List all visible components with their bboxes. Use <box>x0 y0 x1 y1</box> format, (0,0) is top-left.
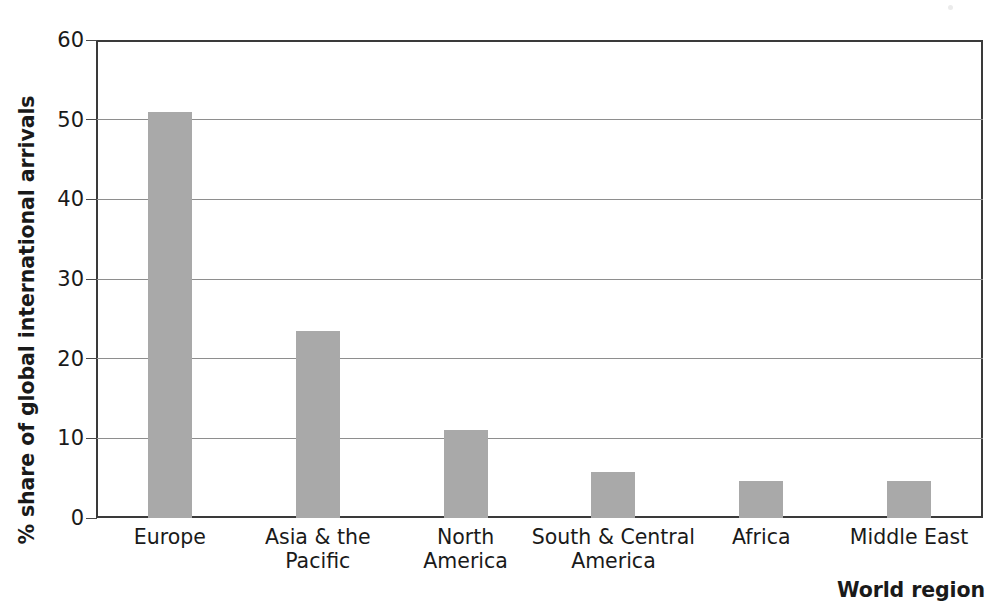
y-tick-label-10: 10 <box>0 428 84 449</box>
gridline-40 <box>96 199 983 200</box>
x-axis-title: World region <box>837 578 985 602</box>
x-tick-label: Middle East <box>809 526 1002 550</box>
y-tick-label-50: 50 <box>0 109 84 130</box>
y-tick-mark-60 <box>86 40 97 41</box>
scan-artifact-speck <box>948 5 953 10</box>
y-tick-label-20: 20 <box>0 348 84 369</box>
y-tick-label-40: 40 <box>0 189 84 210</box>
y-tick-mark-50 <box>86 119 97 120</box>
bar-chart-figure: % share of global international arrivals… <box>0 0 1002 609</box>
y-tick-label-30: 30 <box>0 269 84 290</box>
y-tick-mark-40 <box>86 199 97 200</box>
y-tick-label-60: 60 <box>0 30 84 51</box>
gridline-50 <box>96 119 983 120</box>
y-tick-mark-20 <box>86 358 97 359</box>
y-axis-title: % share of global international arrivals <box>10 80 44 560</box>
gridline-30 <box>96 279 983 280</box>
y-tick-mark-0 <box>86 518 97 519</box>
y-tick-mark-10 <box>86 438 97 439</box>
gridline-20 <box>96 358 983 359</box>
y-tick-mark-30 <box>86 279 97 280</box>
gridline-10 <box>96 438 983 439</box>
